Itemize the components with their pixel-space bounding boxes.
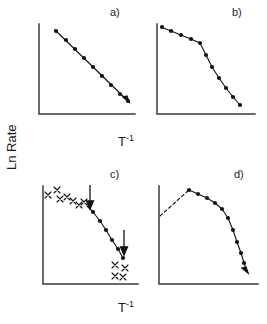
panel-c-outliers-upper: [45, 187, 87, 208]
panel-c-plot: [30, 168, 142, 296]
axis-label-x-bottom: T-1: [118, 299, 134, 315]
panel-a: a): [30, 6, 140, 124]
panel-b-label: b): [232, 6, 242, 18]
panel-b-plot: [148, 6, 260, 124]
panel-a-label: a): [110, 6, 120, 18]
panel-d-rising-limb: [160, 190, 189, 216]
panel-b-data-points: [160, 25, 242, 107]
panel-b-dataline: [161, 27, 240, 105]
axis-label-x-top: T-1: [118, 133, 134, 149]
axis-label-x-bottom-text: T: [118, 300, 126, 315]
figure-arrhenius-plots: a) b): [0, 0, 267, 324]
panel-a-plot: [30, 6, 140, 124]
panel-c-label: c): [110, 168, 119, 180]
axis-label-y-text: Ln Rate: [4, 124, 19, 170]
panel-d-dataline: [189, 190, 247, 271]
panel-c-arrow-lower-bound: [121, 230, 128, 255]
axis-label-x-bottom-exponent: -1: [126, 299, 134, 309]
panel-b: b): [148, 6, 260, 124]
axis-label-y: Ln Rate: [4, 124, 19, 170]
panel-a-axes: [39, 24, 135, 114]
panel-d-plot: [148, 168, 263, 296]
panel-c-outliers-lower: [112, 262, 128, 280]
axis-label-x-top-text: T: [118, 134, 126, 149]
panel-d-line-end: [242, 267, 248, 273]
panel-d-label: d): [234, 168, 244, 180]
panel-c: c): [30, 168, 142, 296]
panel-c-arrow-upper-bound: [87, 185, 94, 209]
axis-label-x-top-exponent: -1: [126, 133, 134, 143]
panel-b-axes: [157, 24, 255, 114]
panel-d: d): [148, 168, 263, 296]
panel-d-data-points: [187, 188, 246, 265]
